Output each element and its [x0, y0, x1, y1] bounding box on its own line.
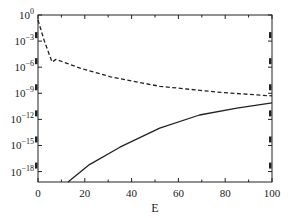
- y-tick-label: 10−6: [14, 59, 34, 73]
- plot-frame: [38, 15, 272, 182]
- y-tick-label: 10−12: [10, 111, 34, 125]
- y-tick-mark: [35, 163, 38, 169]
- y-tick-mark: [35, 110, 38, 116]
- x-tick-label: 60: [173, 187, 185, 199]
- y-tick-mark-right: [269, 84, 272, 90]
- y-tick-label: 10−15: [10, 137, 34, 151]
- x-tick-label: 0: [35, 187, 41, 199]
- y-axis-ticks: 10010−310−610−910−1210−1510−18: [10, 7, 272, 178]
- y-tick-label: 10−18: [10, 164, 34, 178]
- y-tick-label: 10−3: [14, 33, 34, 47]
- y-tick-mark-right: [269, 32, 272, 38]
- y-tick-mark: [35, 58, 38, 64]
- y-tick-mark-right: [269, 163, 272, 169]
- data-series: [38, 20, 272, 182]
- x-axis-label: E: [151, 201, 158, 215]
- x-tick-label: 40: [126, 187, 138, 199]
- chart: 020406080100 10010−310−610−910−1210−1510…: [0, 0, 291, 218]
- y-tick-mark-right: [269, 136, 272, 142]
- y-tick-mark: [35, 136, 38, 142]
- y-tick-mark-right: [269, 58, 272, 64]
- series-dashed: [38, 20, 272, 96]
- x-tick-label: 80: [220, 187, 232, 199]
- series-solid: [68, 103, 272, 182]
- y-tick-label: 10−9: [14, 85, 34, 99]
- y-tick-mark-right: [269, 110, 272, 116]
- x-tick-label: 20: [79, 187, 91, 199]
- y-tick-mark: [35, 84, 38, 90]
- y-tick-mark: [35, 32, 38, 38]
- y-tick-label: 100: [19, 7, 34, 21]
- x-tick-label: 100: [264, 187, 281, 199]
